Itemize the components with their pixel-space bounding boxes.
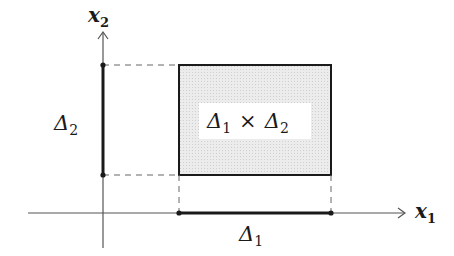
product-label: Δ1×Δ2 (206, 109, 289, 136)
x-axis-label: x1 (414, 199, 436, 226)
y-axis-label: x2 (87, 3, 109, 30)
delta1-label: Δ1 (238, 222, 263, 249)
cartesian-product-diagram: x2 x1 Δ2 Δ1 Δ1×Δ2 (0, 0, 454, 256)
delta2-label: Δ2 (53, 111, 78, 138)
